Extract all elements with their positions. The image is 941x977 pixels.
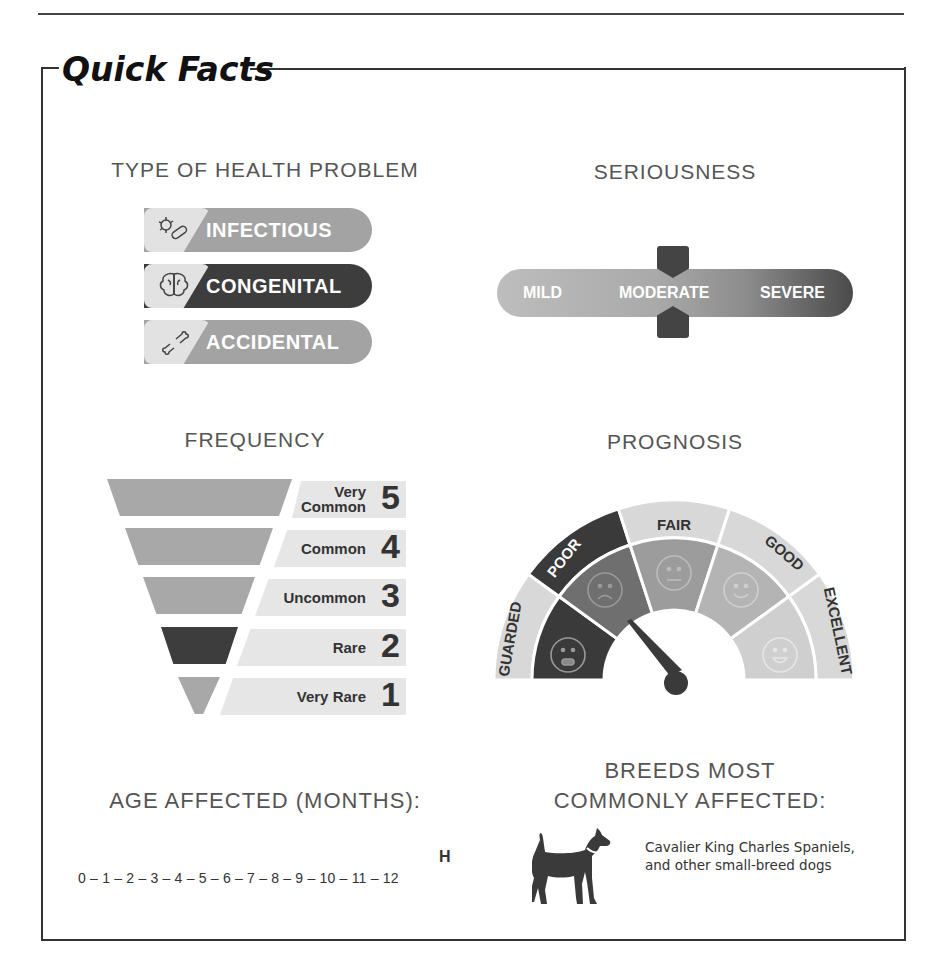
germ-icon xyxy=(154,214,198,246)
age-range-marker: H xyxy=(439,848,451,866)
frequency-level-4: Common 4 xyxy=(274,530,406,567)
type-label: ACCIDENTAL xyxy=(206,320,340,364)
frequency-label: Rare xyxy=(333,640,366,655)
frequency-level-3: Uncommon 3 xyxy=(255,579,406,616)
box-border-top-right xyxy=(250,68,904,70)
frequency-level-1: Very Rare 1 xyxy=(220,678,406,715)
type-congenital: CONGENITAL xyxy=(144,264,372,308)
prognosis-heading: PROGNOSIS xyxy=(560,430,790,454)
frequency-label: Very Rare xyxy=(297,689,366,704)
page-top-rule xyxy=(38,13,904,15)
seriousness-mild: MILD xyxy=(523,269,562,317)
frequency-label: Common xyxy=(301,541,366,556)
gauge-needle xyxy=(627,619,688,695)
frequency-number: 5 xyxy=(381,478,400,517)
type-label: INFECTIOUS xyxy=(206,208,332,252)
frequency-bar-4 xyxy=(125,528,273,565)
frequency-label: Uncommon xyxy=(284,590,367,605)
type-accidental: ACCIDENTAL xyxy=(144,320,372,364)
frequency-number: 3 xyxy=(381,576,400,615)
type-label: CONGENITAL xyxy=(206,264,342,308)
frequency-label-line1: Very xyxy=(334,484,366,499)
seriousness-moderate: MODERATE xyxy=(619,269,709,317)
frequency-bar-3 xyxy=(143,577,255,614)
brain-icon xyxy=(154,270,198,302)
prognosis-gauge: GUARDED POOR FAIR GOOD EXCELLENT xyxy=(482,490,872,710)
frequency-number: 1 xyxy=(381,675,400,714)
age-scale: 0 – 1 – 2 – 3 – 4 – 5 – 6 – 7 – 8 – 9 – … xyxy=(78,870,399,886)
type-heading: TYPE OF HEALTH PROBLEM xyxy=(80,158,450,182)
frequency-number: 4 xyxy=(381,527,400,566)
breeds-heading-line2: COMMONLY AFFECTED: xyxy=(520,788,860,814)
frequency-bar-2 xyxy=(161,627,238,664)
label-fair: FAIR xyxy=(657,516,691,533)
breeds-heading-line1: BREEDS MOST xyxy=(540,758,840,784)
frequency-level-2: Rare 2 xyxy=(237,629,406,666)
frequency-level-5: Very Common 5 xyxy=(292,481,406,518)
frequency-label-line2: Common xyxy=(301,499,366,514)
frequency-bar-5 xyxy=(107,479,292,516)
seriousness-heading: SERIOUSNESS xyxy=(520,160,830,184)
box-border-top-left xyxy=(41,67,59,69)
type-infectious: INFECTIOUS xyxy=(144,208,372,252)
quick-facts-title: Quick Facts xyxy=(62,50,274,89)
frequency-heading: FREQUENCY xyxy=(130,428,380,452)
dog-icon xyxy=(532,826,622,912)
seriousness-severe: SEVERE xyxy=(760,269,825,317)
broken-bone-icon xyxy=(154,326,198,358)
age-heading: AGE AFFECTED (MONTHS): xyxy=(70,788,460,814)
breeds-text: Cavalier King Charles Spaniels, and othe… xyxy=(645,838,865,874)
frequency-number: 2 xyxy=(381,626,400,665)
